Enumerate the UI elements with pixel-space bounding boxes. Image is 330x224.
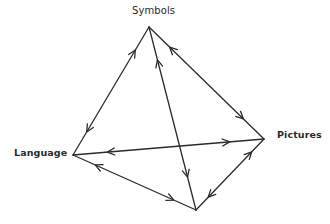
node-label-pictures: Pictures [277,129,322,140]
node-label-language: Language [14,147,67,158]
edge-symbols-language [73,27,149,155]
tetrahedron-diagram [0,0,330,224]
node-label-symbols: Symbols [132,5,175,16]
edge-language-bottom [73,155,196,210]
edge-symbols-pictures [149,27,264,139]
edge-pictures-bottom [196,139,264,210]
edge-language-pictures [73,139,264,155]
